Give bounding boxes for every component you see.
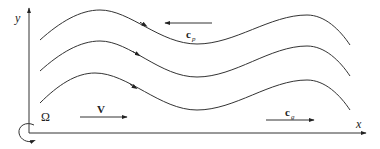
y-axis-label: y bbox=[14, 11, 21, 25]
axes: y x bbox=[14, 8, 366, 133]
phase-velocity-label: c bbox=[186, 28, 191, 40]
streamline-3 bbox=[40, 73, 350, 110]
group-velocity-label: c bbox=[285, 106, 290, 118]
omega-label: Ω bbox=[41, 110, 50, 124]
group-velocity-subscript: g bbox=[291, 113, 295, 121]
rossby-wave-diagram: y x c p V c g Ω bbox=[0, 0, 380, 149]
flow-arrow-icon bbox=[133, 52, 138, 55]
streamlines bbox=[40, 10, 350, 110]
rotation-indicator: Ω bbox=[19, 110, 50, 142]
streamline-2 bbox=[40, 41, 350, 77]
group-velocity-vector: c g bbox=[266, 106, 314, 121]
mean-flow-label: V bbox=[97, 103, 105, 115]
mean-flow-vector: V bbox=[80, 103, 127, 117]
x-axis-label: x bbox=[355, 117, 362, 131]
phase-velocity-vector: c p bbox=[165, 23, 212, 43]
phase-velocity-subscript: p bbox=[191, 35, 196, 43]
